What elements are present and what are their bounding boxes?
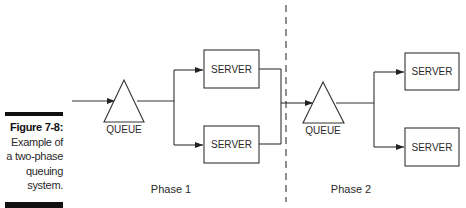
phase-2-label: Phase 2 <box>331 183 371 195</box>
server-1b-label: SERVER <box>211 139 252 150</box>
queuing-diagram: QUEUE SERVER SERVER QUEUE SERVER SERVER … <box>0 0 466 208</box>
server-1a-label: SERVER <box>211 64 252 75</box>
queue-2-label: QUEUE <box>305 125 341 136</box>
queue-1-label: QUEUE <box>106 124 142 135</box>
phase-1-label: Phase 1 <box>151 183 191 195</box>
server-2a-label: SERVER <box>412 66 453 77</box>
server-2b-label: SERVER <box>412 142 453 153</box>
